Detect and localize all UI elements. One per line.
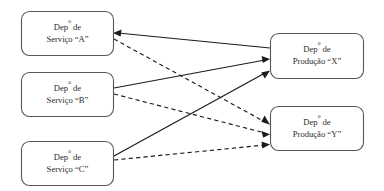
arrowhead-into-x-from-c bbox=[261, 71, 270, 79]
arrowhead-into-y-from-b bbox=[261, 131, 270, 138]
edge-layer bbox=[113, 30, 270, 160]
node-servico-a[interactable]: Depo de Serviço “A” bbox=[22, 12, 114, 56]
node-producao-y-line2: Produção “Y” bbox=[293, 129, 342, 139]
arrowhead-into-x-from-b bbox=[262, 56, 270, 63]
node-servico-c-line2: Serviço “C” bbox=[47, 164, 89, 174]
edge-b-to-y bbox=[114, 94, 270, 138]
node-layer: Depo de Serviço “A” Depo de Serviço “B” … bbox=[22, 12, 364, 186]
node-producao-x-line2: Produção “X” bbox=[293, 56, 342, 66]
edge-a-to-y bbox=[114, 39, 270, 125]
diagram-svg: Depo de Serviço “A” Depo de Serviço “B” … bbox=[0, 0, 384, 191]
node-producao-y[interactable]: Depo de Produção “Y” bbox=[271, 107, 364, 151]
node-servico-a-line2: Serviço “A” bbox=[46, 34, 88, 44]
node-servico-b-line2: Serviço “B” bbox=[47, 95, 89, 105]
arrowhead-into-a bbox=[113, 30, 122, 37]
node-servico-b[interactable]: Depo de Serviço “B” bbox=[22, 73, 114, 117]
arrowhead-into-y-from-c bbox=[262, 141, 270, 148]
node-producao-x[interactable]: Depo de Produção “X” bbox=[271, 34, 364, 79]
diagram-canvas: Depo de Serviço “A” Depo de Serviço “B” … bbox=[0, 0, 384, 191]
node-servico-c[interactable]: Depo de Serviço “C” bbox=[22, 142, 114, 186]
arrowhead-into-y-from-a bbox=[261, 116, 270, 125]
edge-c-to-y bbox=[114, 141, 270, 160]
edge-x-to-a bbox=[113, 30, 270, 48]
